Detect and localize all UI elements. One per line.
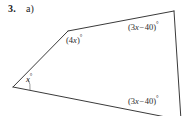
angle-bottom-right-constant: 40 [145, 96, 154, 106]
angle-label-x: x° [26, 73, 32, 83]
polygon-edge-upper-left [13, 31, 68, 87]
angle-label-bottom-right: (3x−40)° [128, 95, 159, 105]
polygon-edge-right [174, 11, 181, 116]
problem-number: 3. [8, 4, 16, 14]
angle-top-right-degree-symbol: ° [156, 20, 159, 27]
angle-top-right-constant: 40 [145, 22, 154, 32]
angle-label-4x: (4x)° [66, 34, 82, 44]
angle-x-degree-symbol: ° [30, 72, 33, 79]
angle-4x-degree-symbol: ° [80, 33, 83, 40]
angle-bottom-right-degree-symbol: ° [156, 94, 159, 101]
problem-figure-page: 3. a) (4x)° (3x−40)° (3x−40)° x° [0, 0, 186, 116]
part-letter: a) [26, 4, 34, 14]
angle-label-top-right: (3x−40)° [128, 21, 159, 31]
